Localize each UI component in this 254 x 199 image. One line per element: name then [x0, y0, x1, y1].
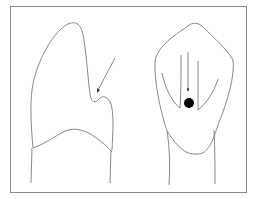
arrow-line [98, 58, 115, 90]
groove-right-outer [198, 79, 218, 110]
marker-dot-icon [184, 98, 194, 108]
center-tick [187, 88, 189, 91]
lateral-crown-outline [31, 23, 113, 150]
lateral-root-right [110, 150, 111, 183]
lateral-root-left [31, 148, 32, 183]
lateral-tooth [31, 23, 115, 183]
diagram-canvas [0, 0, 254, 199]
frontal-root-left [167, 131, 170, 185]
frontal-tooth [155, 23, 233, 185]
diagram-svg [0, 0, 254, 199]
groove-left-outer [162, 73, 180, 108]
frontal-root-right [214, 130, 215, 184]
groove-left-inner [180, 55, 181, 108]
lateral-cervical-line [33, 129, 112, 152]
